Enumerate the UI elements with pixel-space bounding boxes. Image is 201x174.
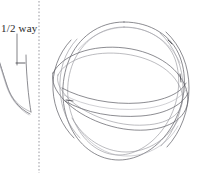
lower-rear-band-arc (72, 118, 178, 152)
band-end-detail (0, 34, 31, 115)
outer-meridian-band-outer (63, 22, 185, 160)
equatorial-band-inner-edge (57, 53, 182, 125)
woven-band-sphere (53, 22, 190, 160)
half-way-label: 1/2 way (1, 22, 38, 34)
upper-rear-band-arc (78, 27, 180, 63)
detail-band-outer-edge (0, 52, 30, 114)
right-crossing-tick (180, 74, 181, 82)
left-crossing-tick (66, 100, 73, 101)
front-band-hairline (64, 88, 187, 109)
detail-band-hairline (0, 50, 29, 115)
figure-root: 1/2 way (0, 0, 201, 174)
front-band-upper-edge (62, 83, 186, 103)
detail-band-right-edge (26, 55, 31, 112)
